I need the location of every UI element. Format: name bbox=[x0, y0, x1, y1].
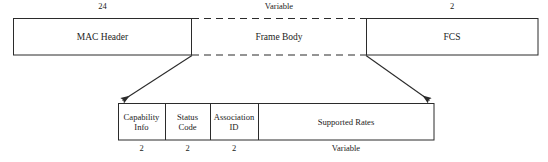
capability-info-label: Capability Info bbox=[118, 103, 165, 140]
association-id-label: Association ID bbox=[210, 103, 258, 140]
mac-header-size-label: 24 bbox=[13, 2, 192, 12]
association-id-label-line1: Association bbox=[214, 112, 255, 122]
supported-rates-label-line1: Supported Rates bbox=[318, 117, 375, 127]
status-code-size-label: 2 bbox=[165, 144, 210, 154]
status-code-label-line1: Status bbox=[177, 112, 198, 122]
fcs-label: FCS bbox=[366, 18, 538, 55]
supported-rates-label: Supported Rates bbox=[258, 103, 434, 140]
frame-format-diagram: 24 Variable 2 MAC Header Frame Body FCS … bbox=[0, 0, 548, 162]
expansion-leader-left bbox=[123, 56, 193, 101]
frame-body-label: Frame Body bbox=[192, 18, 366, 55]
capability-info-label-line1: Capability bbox=[124, 112, 160, 122]
capability-info-label-line2: Info bbox=[134, 122, 148, 132]
status-code-label: Status Code bbox=[165, 103, 210, 140]
frame-body-size-label: Variable bbox=[192, 2, 366, 12]
association-id-label-line2: ID bbox=[229, 122, 238, 132]
association-id-size-label: 2 bbox=[210, 144, 258, 154]
supported-rates-size-label: Variable bbox=[258, 144, 434, 154]
capability-info-size-label: 2 bbox=[118, 144, 165, 154]
mac-header-label: MAC Header bbox=[13, 18, 192, 55]
status-code-label-line2: Code bbox=[178, 122, 196, 132]
expansion-leader-right bbox=[366, 56, 430, 101]
fcs-size-label: 2 bbox=[366, 2, 538, 12]
